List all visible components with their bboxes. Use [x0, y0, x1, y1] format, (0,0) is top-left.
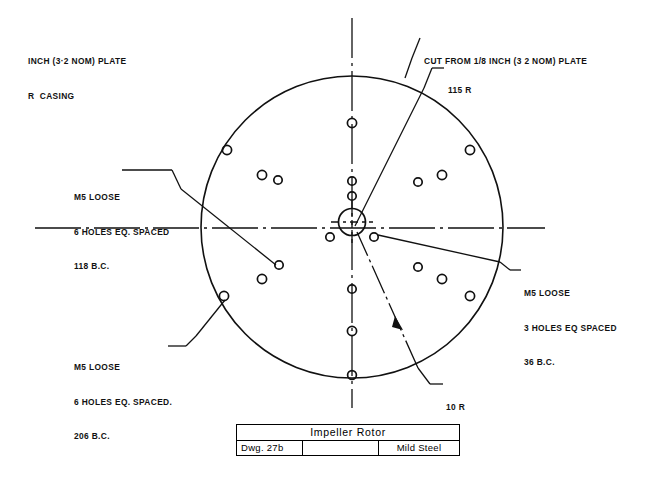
note-10r-line-1: 10 R: [446, 402, 465, 414]
note-top-left: INCH (3·2 NOM) PLATE R CASING: [28, 33, 127, 114]
title-block-title: Impeller Rotor: [237, 425, 459, 441]
title-block-details-row: Dwg. 27b Mild Steel: [237, 441, 459, 455]
hole-hub-right: [370, 233, 378, 241]
title-block: Impeller Rotor Dwg. 27b Mild Steel: [236, 424, 460, 456]
note-115r-line-1: 115 R: [448, 85, 472, 97]
note-top-left-line-1: INCH (3·2 NOM) PLATE: [28, 56, 127, 68]
title-block-material: Mild Steel: [379, 441, 459, 455]
leader-cut-from: [405, 38, 420, 78]
leader-left-lower: [168, 300, 225, 346]
hole-rim-nw: [222, 145, 231, 154]
note-inner-bolt-circle: M5 LOOSE 6 HOLES EQ. SPACED 118 B.C.: [74, 169, 170, 284]
hole-rim-ne: [465, 145, 474, 154]
hole-inner-5: [275, 261, 283, 269]
leader-115r: [355, 68, 444, 226]
note-outer-bolt-circle: M5 LOOSE 6 HOLES EQ. SPACED. 206 B.C.: [74, 339, 172, 454]
note-left-upper-line-3: 118 B.C.: [74, 261, 170, 273]
hole-rim-se: [465, 291, 474, 300]
note-left-lower-line-2: 6 HOLES EQ. SPACED.: [74, 397, 172, 409]
hole-inner-6: [274, 176, 282, 184]
note-top-left-line-2: R CASING: [28, 91, 127, 103]
note-left-lower-line-1: M5 LOOSE: [74, 362, 172, 374]
hole-outer-5: [257, 274, 266, 283]
hole-hub-left: [326, 233, 334, 241]
note-hub-bolt-circle: M5 LOOSE 3 HOLES EQ SPACED 36 B.C.: [524, 265, 617, 380]
note-left-lower-line-3: 206 B.C.: [74, 431, 172, 443]
leader-10r: [357, 232, 443, 384]
note-right-line-2: 3 HOLES EQ SPACED: [524, 323, 617, 335]
leader-right: [378, 235, 521, 270]
note-right-line-3: 36 B.C.: [524, 357, 617, 369]
note-right-line-1: M5 LOOSE: [524, 288, 617, 300]
hole-outer-3: [437, 274, 446, 283]
hole-outer-2: [437, 170, 446, 179]
note-left-upper-line-2: 6 HOLES EQ. SPACED: [74, 227, 170, 239]
title-block-blank-cell: [303, 441, 379, 455]
note-hub-radius: 10 R: [446, 379, 465, 425]
hole-inner-2: [414, 178, 422, 186]
title-block-drawing-number: Dwg. 27b: [237, 441, 303, 455]
hole-inner-3: [414, 263, 422, 271]
note-outer-radius: 115 R: [448, 62, 472, 108]
hole-outer-6: [257, 170, 266, 179]
hole-rim-sw: [219, 291, 228, 300]
note-left-upper-line-1: M5 LOOSE: [74, 192, 170, 204]
